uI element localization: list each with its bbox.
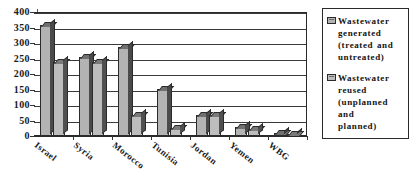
y-axis-tick-label: 50	[19, 116, 30, 126]
y-axis-tick	[30, 136, 35, 137]
y-axis-tick	[30, 12, 35, 13]
legend-label-line: (treated and	[338, 39, 393, 51]
y-axis-tick	[30, 59, 35, 60]
bar-wbg-series1	[274, 133, 286, 136]
x-axis-label-yemen: Yemen	[228, 140, 257, 165]
bars-layer	[34, 12, 307, 136]
y-axis-tick-label: 150	[14, 85, 30, 95]
y-axis-tick-label: 100	[14, 100, 30, 110]
y-axis-tick-label: 250	[14, 54, 30, 64]
legend-entry-1: Wastewatergenerated(treated anduntreated…	[327, 15, 405, 63]
bar-group	[268, 12, 307, 136]
bar-group	[73, 12, 112, 136]
y-axis-tick	[30, 74, 35, 75]
x-axis-label-jordan: Jordan	[189, 140, 219, 167]
bar-tunisia-series2	[170, 128, 182, 136]
y-axis-tick-label: 400	[14, 7, 30, 17]
bar-chart: 400350300250200150100500 IsraelSyriaMoro…	[0, 0, 413, 193]
x-axis-label-wbg: WBG	[267, 140, 292, 162]
legend-label-line: Wastewater	[338, 72, 389, 84]
bar-group	[151, 12, 190, 136]
bar-jordan-series1	[196, 115, 208, 136]
bar-morocco-series2	[131, 115, 143, 136]
series-2-swatch	[327, 74, 336, 81]
y-axis-tick	[30, 105, 35, 106]
bar-group	[34, 12, 73, 136]
bar-syria-series2	[92, 62, 104, 136]
y-axis-tick	[30, 121, 35, 122]
bar-group	[190, 12, 229, 136]
legend-label-line: reused	[338, 84, 389, 96]
bar-israel-series2	[53, 62, 65, 136]
y-axis-tick-label: 350	[14, 23, 30, 33]
legend-label-1: Wastewatergenerated(treated anduntreated…	[338, 15, 393, 63]
y-axis-tick	[30, 43, 35, 44]
x-axis-label-israel: Israel	[33, 140, 59, 163]
bar-wbg-series2	[287, 134, 299, 136]
legend-label-2: Wastewaterreused(unplannedandplanned)	[338, 72, 389, 132]
y-axis-tick-label: 300	[14, 38, 30, 48]
y-axis-tick-labels: 400350300250200150100500	[0, 12, 30, 136]
series-1-swatch	[327, 17, 336, 24]
legend-label-line: Wastewater	[338, 15, 393, 27]
legend-label-line: planned)	[338, 120, 389, 132]
x-axis-line	[34, 136, 307, 137]
bar-yemen-series2	[248, 129, 260, 136]
legend-entry-2: Wastewaterreused(unplannedandplanned)	[327, 72, 405, 132]
bar-group	[112, 12, 151, 136]
legend-label-line: (unplanned	[338, 96, 389, 108]
x-axis-label-tunisia: Tunisia	[150, 140, 181, 167]
legend-label-line: generated	[338, 27, 393, 39]
legend-label-line: and	[338, 108, 389, 120]
y-axis-tick-label: 200	[14, 69, 30, 79]
x-axis-label-morocco: Morocco	[111, 140, 147, 171]
bar-group	[229, 12, 268, 136]
bar-jordan-series2	[209, 115, 221, 136]
bar-tunisia-series1	[157, 89, 169, 136]
x-axis-label-syria: Syria	[72, 140, 96, 162]
legend-label-line: untreated)	[338, 51, 393, 63]
y-axis-tick	[30, 28, 35, 29]
bar-israel-series1	[40, 25, 52, 136]
y-axis-tick	[30, 90, 35, 91]
chart-legend: Wastewatergenerated(treated anduntreated…	[322, 8, 409, 139]
bar-morocco-series1	[118, 47, 130, 136]
bar-yemen-series1	[235, 127, 247, 136]
bar-syria-series1	[79, 57, 91, 136]
x-axis-category-labels: IsraelSyriaMoroccoTunisiaJordanYemenWBG	[34, 140, 313, 193]
